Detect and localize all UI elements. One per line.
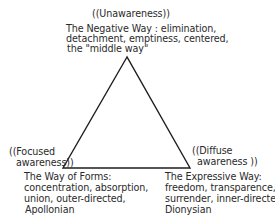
bottom-right-awareness-line-1: ((Diffuse xyxy=(192,146,232,157)
bottom-right-way-line-3: surrender, inner-directed, xyxy=(165,194,275,205)
bottom-right-way-line-2: freedom, transparence, xyxy=(165,183,275,194)
bottom-right-awareness-line-2: awareness )) xyxy=(197,157,258,168)
top-awareness-label: ((Unawareness)) xyxy=(92,9,170,20)
bottom-left-way-line-1: The Way of Forms: xyxy=(24,172,111,183)
bottom-left-awareness-line-2: awareness)) xyxy=(16,158,74,169)
triangle xyxy=(63,57,190,168)
bottom-right-way-line-1: The Expressive Way: xyxy=(165,172,262,183)
bottom-left-way-line-4: Apollonian xyxy=(25,205,74,216)
top-way-line-3: the "middle way" xyxy=(67,44,148,55)
bottom-left-way-line-3: union, outer-directed, xyxy=(24,194,126,205)
bottom-left-awareness-line-1: ((Focused xyxy=(9,147,55,158)
bottom-right-way-line-4: Dionysian xyxy=(165,205,211,216)
bottom-left-way-line-2: concentration, absorption, xyxy=(24,183,148,194)
